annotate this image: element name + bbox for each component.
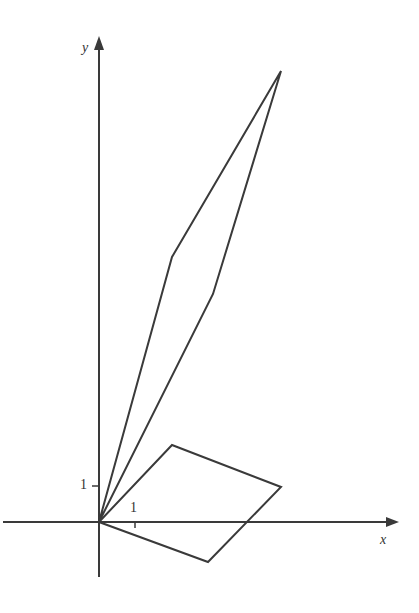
x-axis-label: x [380,532,386,548]
y-axis-arrow-icon [94,36,104,50]
coordinate-plane [0,0,419,613]
y-tick-label: 1 [80,477,87,493]
x-axis-arrow-icon [386,517,399,527]
x-tick-label: 1 [130,500,137,516]
original-parallelogram [99,445,281,562]
y-axis-label: y [82,40,88,56]
transformed-parallelogram [99,71,281,522]
